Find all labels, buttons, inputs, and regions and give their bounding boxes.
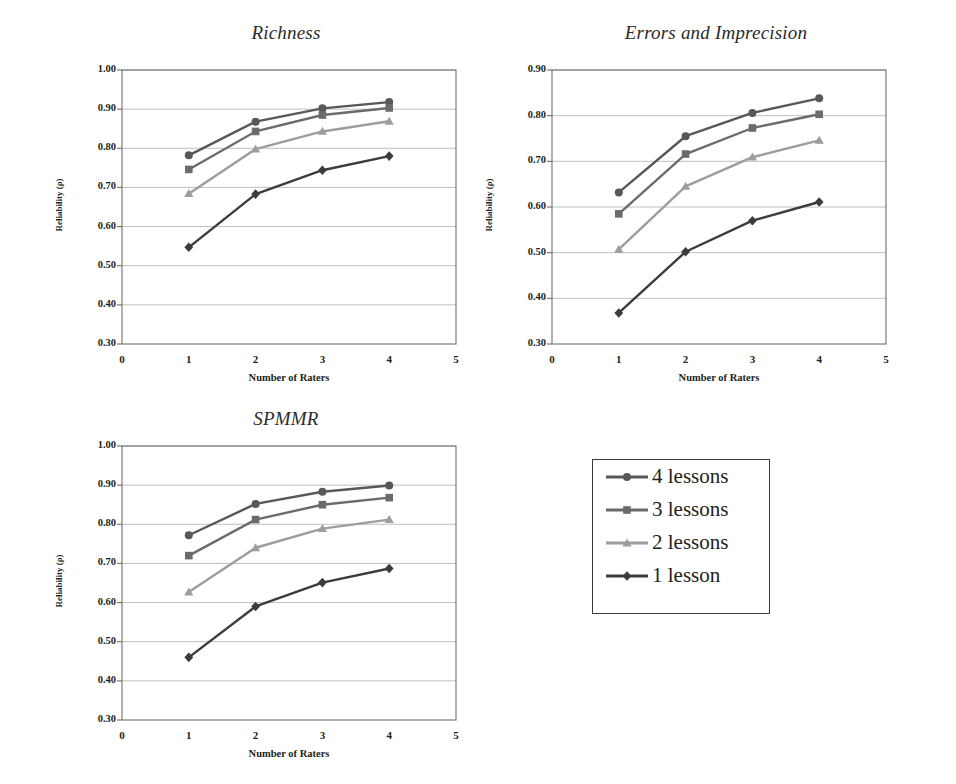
y-tick-label: 0.50 — [76, 635, 116, 646]
series-spmmr-1-lesson — [184, 564, 393, 662]
x-tick-label: 1 — [175, 729, 203, 741]
y-tick-label: 0.90 — [76, 102, 116, 113]
y-tick-label: 0.40 — [76, 674, 116, 685]
chart-panel-spmmr: SPMMR 0.300.400.500.600.700.800.901.0001… — [56, 408, 516, 783]
x-tick-label: 5 — [442, 729, 470, 741]
plot-area-richness: 0.300.400.500.600.700.800.901.00012345Nu… — [56, 22, 516, 412]
y-tick-label: 0.50 — [76, 259, 116, 270]
chart-panel-richness: Richness 0.300.400.500.600.700.800.901.0… — [56, 22, 516, 412]
series-richness-1-lesson — [184, 151, 393, 252]
plot-area-spmmr: 0.300.400.500.600.700.800.901.00012345Nu… — [56, 408, 516, 783]
y-axis-title: Reliability (ρ) — [484, 145, 494, 265]
y-axis-title: Reliability (ρ) — [54, 145, 64, 265]
y-tick-label: 1.00 — [76, 63, 116, 74]
y-tick-label: 0.70 — [506, 154, 546, 165]
y-tick-label: 0.80 — [76, 141, 116, 152]
y-axis-title: Reliability (ρ) — [54, 521, 64, 641]
legend-marker-triangle-icon — [604, 533, 650, 553]
y-tick-label: 0.30 — [76, 713, 116, 724]
series-richness-2-lessons — [184, 117, 394, 197]
y-tick-label: 0.70 — [76, 556, 116, 567]
legend-item: 1 lesson — [593, 559, 769, 592]
y-tick-label: 0.70 — [76, 180, 116, 191]
y-tick-label: 0.30 — [76, 337, 116, 348]
x-tick-label: 2 — [242, 353, 270, 365]
y-tick-label: 0.90 — [506, 63, 546, 74]
x-tick-label: 2 — [672, 353, 700, 365]
figure-root: Richness 0.300.400.500.600.700.800.901.0… — [0, 0, 956, 784]
legend-item-label: 3 lessons — [652, 499, 728, 520]
x-tick-label: 1 — [175, 353, 203, 365]
series-spmmr-2-lessons — [184, 515, 394, 595]
x-tick-label: 5 — [872, 353, 900, 365]
legend-item-label: 2 lessons — [652, 532, 728, 553]
chart-svg-spmmr — [56, 408, 516, 783]
legend-item: 3 lessons — [593, 493, 769, 526]
y-tick-label: 0.60 — [506, 200, 546, 211]
chart-legend: 4 lessons3 lessons2 lessons1 lesson — [592, 459, 770, 614]
series-spmmr-4-lessons — [185, 482, 393, 540]
y-tick-label: 0.50 — [506, 246, 546, 257]
y-tick-label: 0.80 — [76, 517, 116, 528]
x-tick-label: 3 — [308, 353, 336, 365]
x-axis-title: Number of Raters — [552, 372, 886, 383]
x-tick-label: 2 — [242, 729, 270, 741]
y-tick-label: 0.90 — [76, 478, 116, 489]
y-tick-label: 0.30 — [506, 337, 546, 348]
x-tick-label: 4 — [805, 353, 833, 365]
x-tick-label: 0 — [538, 353, 566, 365]
x-axis-title: Number of Raters — [122, 748, 456, 759]
y-tick-label: 0.40 — [76, 298, 116, 309]
x-tick-label: 4 — [375, 353, 403, 365]
legend-item-label: 4 lessons — [652, 466, 728, 487]
series-errors-and-imprecision-1-lesson — [614, 197, 823, 318]
chart-panel-errors-and-imprecision: Errors and Imprecision 0.300.400.500.600… — [486, 22, 946, 412]
x-tick-label: 4 — [375, 729, 403, 741]
figure-caption — [60, 766, 920, 784]
series-spmmr-3-lessons — [185, 494, 393, 560]
legend-item: 2 lessons — [593, 526, 769, 559]
legend-item: 4 lessons — [593, 460, 769, 493]
y-tick-label: 1.00 — [76, 439, 116, 450]
x-tick-label: 5 — [442, 353, 470, 365]
legend-item-label: 1 lesson — [652, 565, 720, 586]
series-richness-4-lessons — [185, 98, 393, 159]
x-tick-label: 3 — [738, 353, 766, 365]
y-tick-label: 0.40 — [506, 291, 546, 302]
plot-area-errors-and-imprecision: 0.300.400.500.600.700.800.90012345Number… — [486, 22, 946, 412]
x-tick-label: 0 — [108, 353, 136, 365]
legend-marker-circle-icon — [604, 467, 650, 487]
x-tick-label: 1 — [605, 353, 633, 365]
x-tick-label: 0 — [108, 729, 136, 741]
series-errors-and-imprecision-3-lessons — [615, 110, 823, 217]
x-axis-title: Number of Raters — [122, 372, 456, 383]
y-tick-label: 0.80 — [506, 109, 546, 120]
legend-marker-diamond-icon — [604, 566, 650, 586]
y-tick-label: 0.60 — [76, 596, 116, 607]
y-tick-label: 0.60 — [76, 220, 116, 231]
x-tick-label: 3 — [308, 729, 336, 741]
series-errors-and-imprecision-4-lessons — [615, 94, 823, 196]
legend-marker-square-icon — [604, 500, 650, 520]
